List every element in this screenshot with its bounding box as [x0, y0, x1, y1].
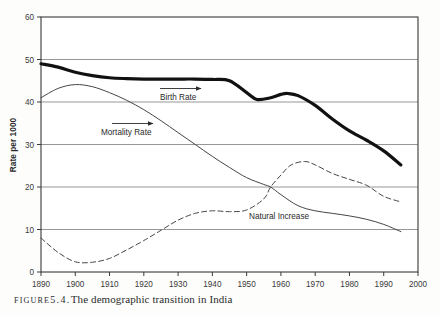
annotation-natural-increase: Natural Increase [249, 212, 310, 221]
x-tick-label: 1900 [66, 280, 85, 289]
natural-increase-label: Natural Increase [249, 212, 310, 221]
x-tick-label: 1930 [169, 280, 188, 289]
y-axis-tick-labels: 0102030405060 [25, 13, 35, 277]
mortality-rate-label: Mortality Rate [101, 128, 152, 137]
y-tick-label: 60 [25, 13, 35, 22]
y-tick-label: 10 [25, 226, 35, 235]
figure-caption: FIGURE5.4.The demographic transition in … [14, 293, 434, 305]
y-tick-label: 20 [25, 183, 35, 192]
x-tick-label: 2000 [409, 280, 428, 289]
birth-rate-label: Birth Rate [160, 93, 197, 102]
y-tick-label: 40 [25, 98, 35, 107]
x-axis-tick-labels: 1890190019101920193019401950196019701980… [32, 280, 428, 289]
x-tick-label: 1990 [375, 280, 394, 289]
caption-figure-number: 5.4. [50, 294, 71, 305]
y-tick-label: 0 [29, 268, 34, 277]
x-tick-label: 1960 [272, 280, 291, 289]
y-axis-ticks [37, 17, 41, 272]
y-axis-title: Rate per 1000 [8, 117, 18, 172]
x-tick-label: 1890 [32, 280, 51, 289]
figure-container: 0102030405060 18901900191019201930194019… [0, 0, 440, 315]
x-tick-label: 1980 [340, 280, 359, 289]
demographic-transition-chart: 0102030405060 18901900191019201930194019… [0, 0, 440, 292]
x-tick-label: 1910 [100, 280, 119, 289]
caption-figure-label: FIGURE [14, 296, 50, 305]
y-tick-label: 50 [25, 56, 35, 65]
x-tick-label: 1950 [238, 280, 257, 289]
x-tick-label: 1970 [306, 280, 325, 289]
y-axis-title-text: Rate per 1000 [8, 117, 18, 172]
x-tick-label: 1940 [203, 280, 222, 289]
y-tick-label: 30 [25, 141, 35, 150]
x-axis-ticks [41, 272, 418, 276]
caption-text: The demographic transition in India [71, 293, 233, 305]
x-tick-label: 1920 [135, 280, 154, 289]
